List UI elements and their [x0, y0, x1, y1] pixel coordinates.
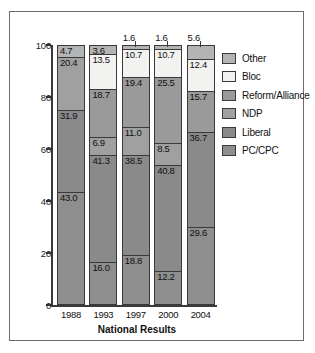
segment-value-label: 41.3 — [92, 156, 109, 166]
segment-value-label: 38.5 — [125, 156, 142, 166]
segment-value-label: 4.7 — [60, 46, 72, 56]
legend-label: PC/CPC — [242, 145, 279, 156]
x-tick-label-2000: 2000 — [154, 309, 182, 320]
segment-value-label: 16.0 — [92, 263, 109, 273]
plot-area: 020406080100 4.720.431.943.03.613.518.76… — [57, 45, 217, 305]
legend-swatch — [222, 90, 236, 101]
y-tick-label: 40 — [41, 196, 51, 207]
bar-segment-bloc[interactable]: 13.5 — [90, 55, 116, 90]
bar-segment-bloc[interactable]: 12.4 — [188, 60, 214, 92]
segment-value-label: 8.5 — [157, 144, 169, 154]
x-tick-label-1997: 1997 — [122, 309, 150, 320]
stacked-bar-2004[interactable]: 5.612.415.736.729.6 — [187, 45, 215, 305]
chart-legend: OtherBlocReform/AllianceNDPLiberalPC/CPC — [222, 49, 310, 160]
y-tick-label: 20 — [41, 248, 51, 259]
segment-value-label: 25.5 — [157, 78, 174, 88]
legend-item-liberal[interactable]: Liberal — [222, 123, 310, 142]
x-tick-label-2004: 2004 — [187, 309, 215, 320]
legend-item-ndp[interactable]: NDP — [222, 105, 310, 124]
segment-value-label: 12.4 — [190, 60, 207, 70]
bar-segment-ndp[interactable]: 6.9 — [90, 138, 116, 156]
bar-segment-liberal[interactable]: 40.8 — [155, 166, 181, 272]
x-tick-label-1993: 1993 — [89, 309, 117, 320]
bar-segment-other[interactable]: 5.6 — [188, 46, 214, 60]
segment-value-label: 6.9 — [92, 138, 104, 148]
bar-segment-pc-cpc[interactable]: 29.6 — [188, 228, 214, 304]
legend-label: Reform/Alliance — [242, 90, 310, 101]
bar-segment-liberal[interactable]: 41.3 — [90, 156, 116, 263]
y-tick-label: 80 — [41, 92, 51, 103]
segment-value-label: 31.9 — [60, 111, 77, 121]
segment-value-label: 10.7 — [125, 50, 142, 60]
legend-label: Liberal — [242, 127, 271, 138]
segment-value-label: 18.8 — [125, 256, 142, 266]
label-leader-line — [135, 41, 136, 47]
legend-item-reform-alliance[interactable]: Reform/Alliance — [222, 86, 310, 105]
bar-segment-reform-alliance[interactable]: 25.5 — [155, 78, 181, 144]
segment-value-label: 5.6 — [188, 33, 200, 43]
x-axis-title: National Results — [57, 324, 217, 335]
segment-value-label: 19.4 — [125, 78, 142, 88]
legend-label: NDP — [242, 108, 263, 119]
bar-segment-pc-cpc[interactable]: 16.0 — [90, 263, 116, 304]
label-leader-line — [167, 41, 168, 47]
segment-value-label: 13.5 — [92, 55, 109, 65]
legend-swatch — [222, 53, 236, 64]
legend-item-pc-cpc[interactable]: PC/CPC — [222, 142, 310, 161]
bar-segment-liberal[interactable]: 38.5 — [123, 156, 149, 255]
y-axis-line — [51, 45, 53, 305]
bar-segment-liberal[interactable]: 36.7 — [188, 133, 214, 228]
bar-segment-ndp[interactable]: 11.0 — [123, 128, 149, 156]
bar-segment-ndp[interactable]: 20.4 — [58, 58, 84, 111]
segment-value-label: 18.7 — [92, 90, 109, 100]
legend-item-other[interactable]: Other — [222, 49, 310, 68]
y-tick-label: 60 — [41, 144, 51, 155]
bar-segment-pc-cpc[interactable]: 18.8 — [123, 256, 149, 305]
segment-value-label: 29.6 — [190, 228, 207, 238]
segment-value-label: 11.0 — [125, 128, 142, 138]
stacked-bar-1993[interactable]: 3.613.518.76.941.316.0 — [89, 45, 117, 305]
segment-value-label: 36.7 — [190, 133, 207, 143]
y-tick-label: 100 — [36, 40, 51, 51]
bar-segment-ndp[interactable]: 8.5 — [155, 144, 181, 166]
bar-segment-reform-alliance[interactable]: 19.4 — [123, 78, 149, 128]
segment-value-label: 1.6 — [155, 33, 167, 43]
bar-segment-pc-cpc[interactable]: 43.0 — [58, 193, 84, 304]
legend-swatch — [222, 127, 236, 138]
stacked-bar-2000[interactable]: 1.610.725.58.540.812.2 — [154, 45, 182, 305]
segment-value-label: 10.7 — [157, 50, 174, 60]
label-leader-line — [200, 41, 201, 47]
y-tick-label: 0 — [46, 300, 51, 311]
bar-segment-bloc[interactable]: 10.7 — [123, 50, 149, 78]
x-axis-line — [51, 305, 217, 307]
bar-segment-pc-cpc[interactable]: 12.2 — [155, 272, 181, 304]
stacked-bar-1988[interactable]: 4.720.431.943.0 — [57, 45, 85, 305]
segment-value-label: 15.7 — [190, 92, 207, 102]
legend-swatch — [222, 71, 236, 82]
x-tick-label-1988: 1988 — [57, 309, 85, 320]
legend-item-bloc[interactable]: Bloc — [222, 68, 310, 87]
segment-value-label: 43.0 — [60, 193, 77, 203]
bar-segment-liberal[interactable]: 31.9 — [58, 111, 84, 193]
segment-value-label: 40.8 — [157, 166, 174, 176]
segment-value-label: 20.4 — [60, 58, 77, 68]
stacked-bar-1997[interactable]: 1.610.719.411.038.518.8 — [122, 45, 150, 305]
legend-label: Bloc — [242, 71, 261, 82]
bar-segment-bloc[interactable]: 10.7 — [155, 50, 181, 78]
chart-frame: 020406080100 4.720.431.943.03.613.518.76… — [9, 11, 304, 341]
legend-label: Other — [242, 53, 266, 64]
segment-value-label: 12.2 — [157, 272, 174, 282]
legend-swatch — [222, 145, 236, 156]
legend-swatch — [222, 108, 236, 119]
segment-value-label: 1.6 — [123, 33, 135, 43]
bar-segment-reform-alliance[interactable]: 18.7 — [90, 90, 116, 138]
bar-segment-reform-alliance[interactable]: 15.7 — [188, 92, 214, 133]
